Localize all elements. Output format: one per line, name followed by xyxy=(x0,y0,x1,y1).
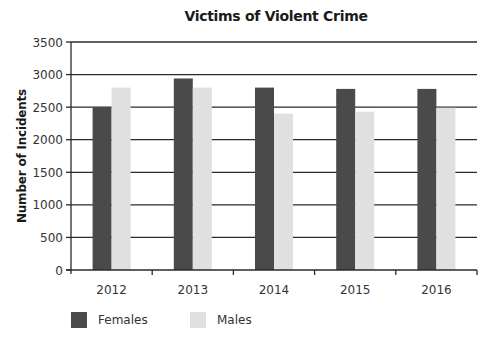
bar-females-2013 xyxy=(174,78,193,270)
bar-males-2012 xyxy=(112,88,131,270)
x-tick-label: 2015 xyxy=(340,283,371,297)
legend-item-males: Males xyxy=(190,312,252,328)
bar-males-2014 xyxy=(274,114,293,270)
bar-males-2016 xyxy=(436,108,455,270)
y-tick-label: 500 xyxy=(40,231,63,245)
bar-males-2013 xyxy=(193,88,212,270)
x-tick-label: 2013 xyxy=(178,283,209,297)
x-tick-label: 2014 xyxy=(259,283,290,297)
bar-females-2014 xyxy=(255,88,274,270)
x-tick-label: 2016 xyxy=(421,283,452,297)
y-tick-label: 0 xyxy=(55,264,63,278)
legend-item-females: Females xyxy=(71,312,148,328)
y-tick-label: 3500 xyxy=(32,36,63,50)
y-tick-label: 3000 xyxy=(32,68,63,82)
bar-females-2015 xyxy=(336,89,355,270)
y-tick-label: 1500 xyxy=(32,166,63,180)
bar-chart-plot: 0500100015002000250030003500201220132014… xyxy=(0,0,489,342)
females-swatch-icon xyxy=(71,312,87,328)
bar-females-2016 xyxy=(417,89,436,270)
bar-males-2015 xyxy=(355,112,374,270)
y-tick-label: 1000 xyxy=(32,198,63,212)
y-tick-label: 2500 xyxy=(32,101,63,115)
legend-label-females: Females xyxy=(98,313,148,327)
males-swatch-icon xyxy=(190,312,206,328)
y-tick-label: 2000 xyxy=(32,133,63,147)
legend-label-males: Males xyxy=(217,313,252,327)
x-tick-label: 2012 xyxy=(96,283,127,297)
bar-females-2012 xyxy=(93,107,112,270)
